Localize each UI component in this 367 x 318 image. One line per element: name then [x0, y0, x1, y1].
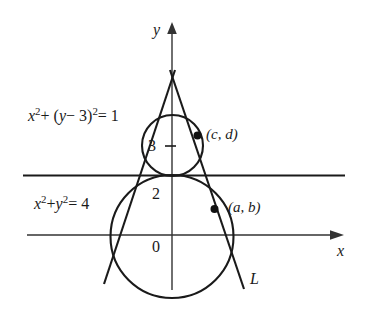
x-axis-label: x [337, 243, 344, 259]
x-axis [27, 230, 344, 240]
figure-canvas [0, 0, 367, 318]
y-tick-label-2: 2 [152, 186, 160, 202]
equation-large-circle-equals: = 4 [68, 195, 89, 212]
tangent-line-right [170, 70, 244, 289]
equation-large-circle-plus: + [47, 195, 56, 212]
equation-small-circle-y: y [59, 107, 66, 124]
tangent-line-label: L [250, 271, 259, 287]
point-ab-marker [211, 205, 219, 213]
equation-small-circle-plus: + ( [41, 107, 59, 124]
equation-large-circle: x2+y2= 4 [34, 196, 89, 212]
point-cd-marker [194, 132, 202, 140]
point-ab-label: (a, b) [228, 200, 261, 215]
tangent-line-left [104, 70, 175, 284]
origin-label: 0 [152, 239, 160, 255]
y-axis [167, 22, 177, 290]
point-cd-label: (c, d) [206, 127, 238, 142]
geometry-figure: x2+ (y− 3)2= 1 x2+y2= 4 y x 3 2 0 (c, d)… [0, 0, 367, 318]
equation-small-circle-minus-three: − 3) [66, 107, 92, 124]
y-tick-label-3: 3 [148, 138, 156, 154]
equation-small-circle-equals: = 1 [98, 107, 119, 124]
equation-large-circle-y: y [56, 195, 63, 212]
y-axis-label: y [153, 22, 160, 38]
equation-small-circle: x2+ (y− 3)2= 1 [28, 108, 119, 124]
